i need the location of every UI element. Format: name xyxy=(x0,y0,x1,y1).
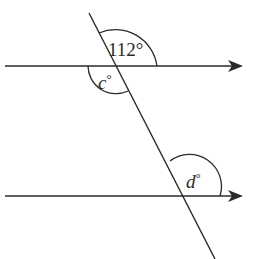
angle-label-d: d° xyxy=(186,170,201,192)
angle-label-112: 112° xyxy=(108,39,143,60)
geometry-diagram: 112° c° d° xyxy=(0,0,257,259)
angle-label-c: c° xyxy=(98,71,112,93)
top-parallel-line xyxy=(5,60,243,72)
bottom-parallel-line xyxy=(5,190,243,202)
